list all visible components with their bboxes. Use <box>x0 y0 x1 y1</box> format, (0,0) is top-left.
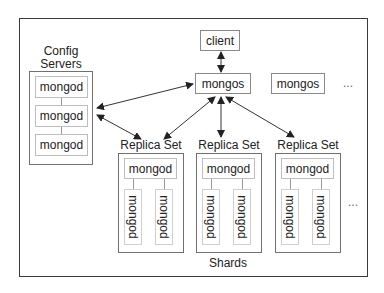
connection-arrows <box>0 0 384 293</box>
arrow-config-rs1 <box>97 115 141 139</box>
arrow-mongos-rs3 <box>226 97 294 137</box>
arrow-mongos-rs1 <box>164 97 215 139</box>
arrow-config-mongos <box>97 84 193 108</box>
